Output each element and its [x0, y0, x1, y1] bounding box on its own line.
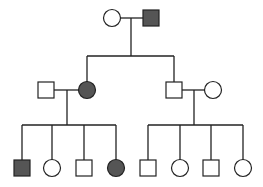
unaffected-male-square-icon [140, 160, 156, 176]
pedigree-svg [0, 0, 263, 187]
affected-male-square-icon [14, 160, 30, 176]
unaffected-female-circle-icon [44, 160, 61, 177]
affected-female-circle-icon [79, 82, 96, 99]
pedigree-chart [0, 0, 263, 187]
unaffected-female-circle-icon [172, 160, 189, 177]
unaffected-female-circle-icon [235, 160, 252, 177]
unaffected-female-circle-icon [205, 82, 222, 99]
unaffected-male-square-icon [76, 160, 92, 176]
unaffected-female-circle-icon [104, 10, 121, 27]
unaffected-male-square-icon [166, 82, 182, 98]
affected-female-circle-icon [108, 160, 125, 177]
unaffected-male-square-icon [38, 82, 54, 98]
unaffected-male-square-icon [203, 160, 219, 176]
affected-male-square-icon [143, 10, 159, 26]
individual-symbols [14, 10, 252, 177]
